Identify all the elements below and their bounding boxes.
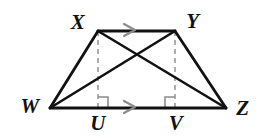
geometry-canvas [0,0,260,140]
vertex-label-x: X [71,12,86,33]
vertex-label-w: W [20,96,39,117]
side-wx-line [50,31,98,108]
geometry-figure: W X Y Z U V [0,0,260,140]
vertex-label-v: V [169,113,184,134]
side-yz-line [175,31,226,108]
diagonal-xz-line [98,31,226,108]
vertex-label-z: Z [236,98,249,119]
vertex-label-u: U [90,113,106,134]
diagonal-wy-line [50,31,175,108]
right-angle-v-mark [165,97,175,108]
right-angle-u-mark [98,97,108,108]
vertex-label-y: Y [186,11,199,32]
